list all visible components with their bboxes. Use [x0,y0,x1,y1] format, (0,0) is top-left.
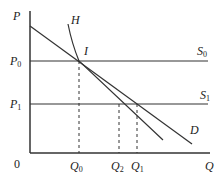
curve-label-d: D [189,123,199,137]
curve-h [68,24,163,140]
quantity-label-q2: Q2 [111,159,124,174]
supply-label-s1: S1 [200,88,210,103]
intersection-label-i: I [83,44,89,58]
quantity-label-q0: Q0 [70,159,83,174]
curve-label-h: H [70,13,81,27]
demand-curve-d [30,26,192,144]
price-label-p1: P1 [9,97,21,112]
origin-label: 0 [14,157,20,171]
x-axis-label: Q [205,159,214,173]
diagram-canvas: P Q 0 P0 P1 S0 S1 H I D Q0 Q2 Q1 [0,0,222,179]
y-axis-label: P [12,9,21,23]
supply-label-s0: S0 [197,44,207,59]
price-label-p0: P0 [9,54,21,69]
quantity-label-q1: Q1 [131,159,144,174]
